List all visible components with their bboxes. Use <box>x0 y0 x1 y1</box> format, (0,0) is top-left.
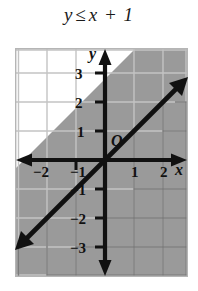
y-tick-label-3: 3 <box>75 67 83 82</box>
page-title: y≤x + 1 <box>0 4 198 26</box>
y-tick-label-1: 1 <box>77 125 85 140</box>
y-tick-label-neg2: −2 <box>70 212 86 227</box>
figure-canvas: y≤x + 1 <box>0 0 198 291</box>
y-tick-label-neg1: −1 <box>70 183 86 198</box>
title-operator: ≤ <box>73 4 88 25</box>
title-rhs: x + 1 <box>89 4 134 25</box>
origin-label: O <box>111 133 123 149</box>
x-tick-label-neg2: −2 <box>33 165 49 180</box>
x-tick-label-1: 1 <box>131 165 139 180</box>
x-tick-label-neg1: −1 <box>70 165 86 180</box>
graph-svg <box>15 48 188 277</box>
title-lhs: y <box>64 4 73 25</box>
y-tick-label-2: 2 <box>75 96 83 111</box>
y-axis-label: y <box>89 46 96 62</box>
x-axis-label: x <box>175 162 183 178</box>
x-tick-label-2: 2 <box>160 165 168 180</box>
y-tick-label-neg3: −3 <box>70 241 86 256</box>
coordinate-plane: 3 2 1 −1 −2 −3 −2 −1 1 2 y x O <box>15 48 188 277</box>
